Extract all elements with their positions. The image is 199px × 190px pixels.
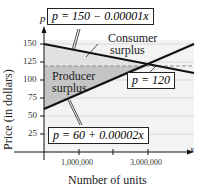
x-tick-3m: 3,000,000 (130, 159, 162, 167)
consumer-surplus-label-2: surplus (110, 44, 145, 56)
supply-equation-label: p = 60 + 0.00002x (48, 127, 149, 144)
x-axis-symbol: x (190, 145, 194, 154)
y-tick-75: 75 (28, 93, 37, 102)
x-tick-1m: 1,000,000 (61, 159, 93, 167)
y-tick-125: 125 (23, 57, 37, 66)
equilibrium-price-label: p = 120 (127, 72, 175, 89)
y-tick-100: 100 (23, 75, 37, 84)
y-axis-symbol: p (40, 13, 46, 24)
y-tick-50: 50 (28, 111, 37, 120)
demand-equation-label: p = 150 − 0.00001x (47, 8, 154, 25)
y-tick-150: 150 (23, 39, 37, 48)
y-axis-title: Price (in dollars) (2, 69, 14, 150)
x-axis-title: Number of units (68, 174, 147, 186)
y-tick-25: 25 (28, 129, 37, 138)
producer-surplus-label-2: surplus (52, 82, 87, 94)
